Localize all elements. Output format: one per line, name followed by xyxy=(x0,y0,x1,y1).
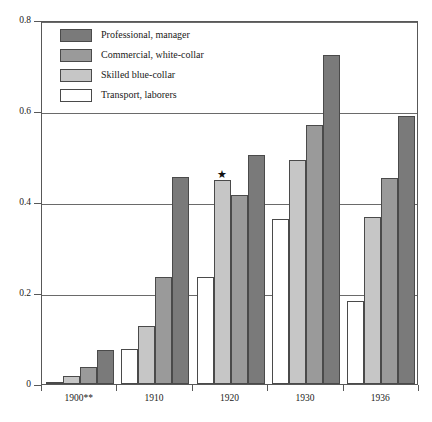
legend-item: Professional, manager xyxy=(60,25,204,45)
legend-item: Skilled blue-collar xyxy=(60,65,204,85)
bar xyxy=(364,217,381,384)
y-axis-label: 0 xyxy=(0,380,31,390)
y-axis-label: 0.4 xyxy=(0,198,31,208)
bar xyxy=(97,350,114,384)
y-axis-tick xyxy=(34,21,41,22)
legend-label: Transport, laborers xyxy=(101,90,177,100)
y-axis-label: 0.8 xyxy=(0,16,31,26)
bar xyxy=(272,219,289,384)
y-axis-tick xyxy=(34,112,41,113)
bar xyxy=(381,178,398,384)
legend-swatch xyxy=(60,49,92,62)
bar xyxy=(155,277,172,384)
x-axis-tick xyxy=(267,385,268,391)
bar xyxy=(121,349,138,384)
legend-swatch xyxy=(60,29,92,42)
x-axis-label: 1930 xyxy=(265,394,345,404)
legend-swatch xyxy=(60,89,92,102)
bar xyxy=(46,382,63,384)
bar-chart-figure: ★ 00.20.40.60.8 1900**1910192019301936 P… xyxy=(0,0,432,422)
bar xyxy=(289,160,306,384)
bar xyxy=(398,116,415,384)
x-axis-label: 1900** xyxy=(39,394,119,404)
x-axis-tick xyxy=(41,385,42,391)
x-axis-tick xyxy=(418,385,419,391)
y-axis-label: 0.6 xyxy=(0,107,31,117)
legend-item: Transport, laborers xyxy=(60,85,204,105)
star-marker: ★ xyxy=(212,169,232,180)
bar xyxy=(63,376,80,384)
bar xyxy=(306,125,323,384)
gridline xyxy=(42,22,417,23)
bar xyxy=(197,277,214,384)
gridline xyxy=(42,113,417,114)
bar xyxy=(323,55,340,384)
y-axis-tick xyxy=(34,203,41,204)
legend-item: Commercial, white-collar xyxy=(60,45,204,65)
bar xyxy=(80,367,97,384)
y-axis-tick xyxy=(34,385,41,386)
legend-label: Skilled blue-collar xyxy=(101,70,175,80)
legend-label: Professional, manager xyxy=(101,30,190,40)
bar xyxy=(138,326,155,384)
legend-swatch xyxy=(60,69,92,82)
bar xyxy=(347,301,364,384)
x-axis-tick xyxy=(116,385,117,391)
chart-legend: Professional, managerCommercial, white-c… xyxy=(60,25,204,105)
x-axis-label: 1910 xyxy=(114,394,194,404)
bar xyxy=(214,180,231,384)
x-axis-tick xyxy=(192,385,193,391)
bar xyxy=(248,155,265,384)
y-axis-label: 0.2 xyxy=(0,289,31,299)
x-axis-label: 1936 xyxy=(340,394,420,404)
bar xyxy=(231,195,248,384)
x-axis-tick xyxy=(343,385,344,391)
legend-label: Commercial, white-collar xyxy=(101,50,204,60)
y-axis-tick xyxy=(34,294,41,295)
y-axis-line xyxy=(41,21,42,385)
bar xyxy=(172,177,189,384)
x-axis-label: 1920 xyxy=(190,394,270,404)
